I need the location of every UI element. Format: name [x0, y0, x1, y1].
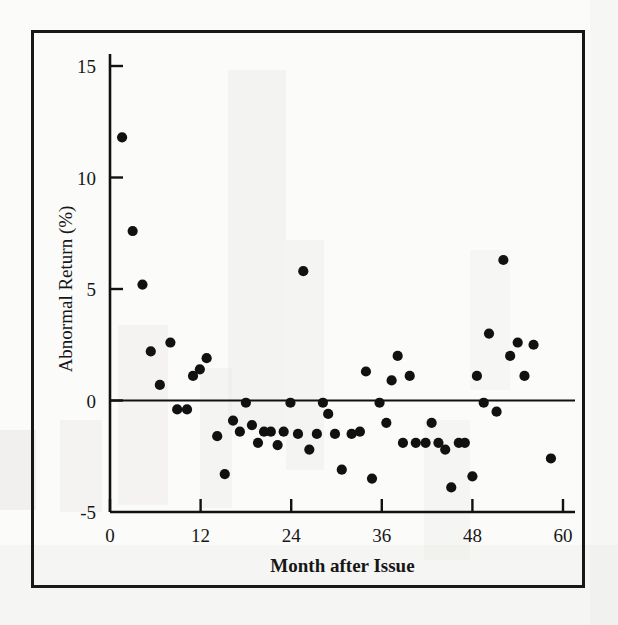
y-axis-tick-label: 5 — [87, 279, 97, 300]
data-point — [411, 438, 421, 448]
x-axis-tick-label: 0 — [105, 525, 115, 546]
data-point — [519, 371, 529, 381]
data-point — [479, 398, 489, 408]
data-point — [446, 482, 456, 492]
data-point — [137, 279, 147, 289]
data-point — [361, 366, 371, 376]
data-point — [330, 429, 340, 439]
data-point — [165, 337, 175, 347]
y-axis-tick-label: 0 — [87, 391, 97, 412]
data-point — [420, 438, 430, 448]
data-point — [467, 471, 477, 481]
data-point — [387, 375, 397, 385]
data-point — [220, 469, 230, 479]
data-point — [505, 351, 515, 361]
x-axis-tick-label: 36 — [372, 525, 391, 546]
data-point — [318, 398, 328, 408]
x-axis-tick-label: 60 — [554, 525, 573, 546]
data-point — [498, 255, 508, 265]
data-point — [460, 438, 470, 448]
data-point — [367, 473, 377, 483]
data-point — [323, 409, 333, 419]
data-point — [228, 415, 238, 425]
y-axis-title: Abnormal Return (%) — [55, 206, 77, 373]
data-point — [253, 438, 263, 448]
data-point — [440, 444, 450, 454]
data-point — [304, 444, 314, 454]
data-point — [285, 398, 295, 408]
data-point — [398, 438, 408, 448]
data-point — [472, 371, 482, 381]
data-point — [212, 431, 222, 441]
data-point — [393, 351, 403, 361]
data-point — [405, 371, 415, 381]
data-point — [279, 427, 289, 437]
data-point — [117, 132, 127, 142]
data-point — [155, 380, 165, 390]
data-point — [528, 340, 538, 350]
x-axis-title: Month after Issue — [270, 555, 414, 576]
data-point — [195, 364, 205, 374]
data-point — [202, 353, 212, 363]
series-abnormal-return — [117, 132, 556, 492]
data-point — [427, 418, 437, 428]
data-point — [293, 429, 303, 439]
data-point — [172, 404, 182, 414]
data-point — [355, 427, 365, 437]
data-point — [298, 266, 308, 276]
data-point — [146, 346, 156, 356]
y-axis-tick-label: 15 — [77, 56, 96, 77]
data-point — [312, 429, 322, 439]
data-point — [337, 465, 347, 475]
scatter-chart: -505101501224364860Month after IssueAbno… — [0, 0, 618, 625]
data-point — [273, 440, 283, 450]
y-axis-tick-label: 10 — [77, 168, 96, 189]
figure-root: -505101501224364860Month after IssueAbno… — [0, 0, 618, 625]
data-point — [247, 420, 257, 430]
data-point — [484, 329, 494, 339]
data-point — [546, 453, 556, 463]
data-point — [491, 407, 501, 417]
y-axis-tick-label: -5 — [80, 502, 96, 523]
data-point — [381, 418, 391, 428]
data-point — [374, 398, 384, 408]
x-axis-tick-label: 24 — [282, 525, 302, 546]
data-point — [128, 226, 138, 236]
data-point — [235, 427, 245, 437]
data-point — [241, 398, 251, 408]
x-axis-tick-label: 12 — [191, 525, 210, 546]
data-point — [513, 337, 523, 347]
data-point — [182, 404, 192, 414]
x-axis-tick-label: 48 — [463, 525, 482, 546]
data-point — [266, 427, 276, 437]
